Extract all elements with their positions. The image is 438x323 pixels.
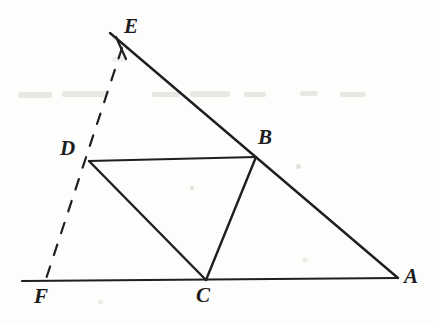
segment-BC [206,157,256,280]
vertex-label-d: D [60,138,75,159]
tick-on-EA [116,37,126,59]
segment-EF-dashed [45,48,122,282]
vertex-label-c: C [196,285,210,306]
vertex-label-f: F [34,286,48,307]
tick-marks-group [116,37,126,59]
geometry-figure: EDBFCA [0,0,438,323]
segments-group [22,33,398,282]
vertex-label-e: E [124,16,138,37]
vertex-label-a: A [404,266,418,287]
figure-drawing-canvas [0,0,438,323]
segment-EA [110,33,398,278]
segment-DC [89,161,206,280]
segment-DB [89,157,256,161]
segment-FA [22,278,398,281]
vertex-label-b: B [258,127,272,148]
